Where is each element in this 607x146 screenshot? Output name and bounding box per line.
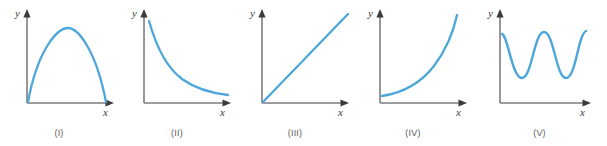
curve-exponential <box>382 15 457 96</box>
axes-2 <box>140 9 231 107</box>
curve-downward-parabola <box>28 28 106 102</box>
panel-caption-5: (V) <box>472 128 607 138</box>
graph-svg-4: y x <box>354 0 472 120</box>
graph-svg-3: y x <box>236 0 354 120</box>
y-axis-label: y <box>249 7 255 19</box>
y-axis-arrow-icon <box>258 9 265 18</box>
y-axis-arrow-icon <box>23 9 30 18</box>
graph-svg-5: y x <box>472 0 607 120</box>
curve-decay <box>149 21 228 95</box>
graph-panel-4: y x (IV) <box>354 0 472 146</box>
graph-panel-2: y x (II) <box>118 0 236 146</box>
figure-root: y x (I) y x (II) <box>0 0 607 146</box>
y-axis-label: y <box>14 7 20 19</box>
x-axis-label: x <box>337 106 343 118</box>
curve-sinusoidal <box>502 31 586 78</box>
graph-svg-2: y x <box>118 0 236 120</box>
curve-linear <box>263 14 348 102</box>
graph-svg-1: y x <box>0 0 118 120</box>
x-axis-label: x <box>102 106 108 118</box>
y-axis-label: y <box>487 7 493 19</box>
panel-caption-3: (III) <box>236 128 354 138</box>
y-axis-label: y <box>367 7 373 19</box>
y-axis-label: y <box>131 7 137 19</box>
panel-caption-1: (I) <box>0 128 118 138</box>
y-axis-arrow-icon <box>496 9 503 18</box>
panel-caption-2: (II) <box>118 128 236 138</box>
x-axis-label: x <box>579 106 585 118</box>
axes-4 <box>376 9 467 107</box>
panel-caption-4: (IV) <box>354 128 472 138</box>
graph-panel-1: y x (I) <box>0 0 118 146</box>
y-axis-arrow-icon <box>376 9 383 18</box>
axes-1 <box>23 9 114 107</box>
graph-panel-3: y x (III) <box>236 0 354 146</box>
y-axis-arrow-icon <box>140 9 147 18</box>
x-axis-label: x <box>219 106 225 118</box>
x-axis-label: x <box>455 106 461 118</box>
graph-panel-5: y x (V) <box>472 0 607 146</box>
